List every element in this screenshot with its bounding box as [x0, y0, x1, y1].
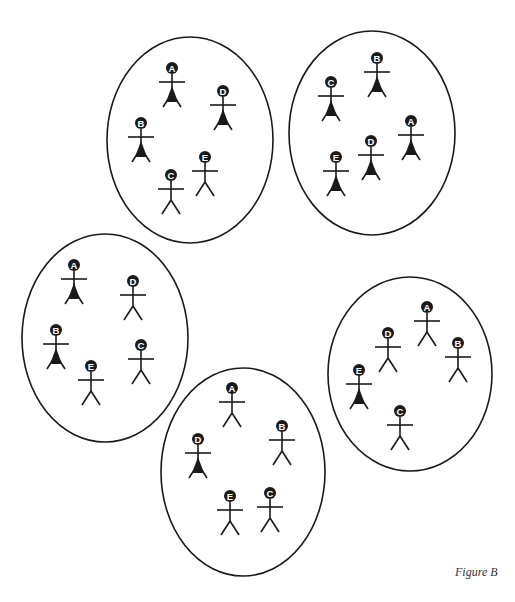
- skirt-triangle-icon: [365, 159, 377, 175]
- person-label: D: [130, 276, 137, 287]
- skirt-triangle-icon: [135, 141, 147, 157]
- person-label: C: [267, 488, 274, 499]
- person-c-open: C: [158, 169, 184, 214]
- person-label: B: [374, 53, 381, 64]
- person-b-filled: B: [43, 324, 69, 369]
- person-b-filled: B: [364, 52, 390, 97]
- group-ellipse: [107, 37, 273, 243]
- person-d-open: D: [375, 327, 401, 372]
- person-b-open: B: [445, 337, 471, 382]
- person-label: C: [138, 340, 145, 351]
- person-label: C: [397, 406, 404, 417]
- person-e-open: E: [217, 490, 243, 535]
- skirt-triangle-icon: [50, 348, 62, 364]
- person-label: A: [229, 383, 236, 394]
- skirt-triangle-icon: [192, 457, 204, 473]
- person-label: D: [220, 86, 227, 97]
- person-label: B: [138, 118, 145, 129]
- group-right: ADBEC: [328, 277, 492, 471]
- person-d-filled: D: [210, 85, 236, 130]
- person-a-filled: A: [61, 259, 87, 304]
- person-label: A: [424, 302, 431, 313]
- group-ellipse: [22, 234, 188, 442]
- skirt-triangle-icon: [353, 388, 365, 404]
- skirt-triangle-icon: [371, 76, 383, 92]
- person-label: A: [71, 260, 78, 271]
- group-top-right: BCADE: [289, 31, 455, 235]
- person-e-open: E: [78, 360, 104, 405]
- person-e-open: E: [192, 151, 218, 196]
- person-label: A: [408, 116, 415, 127]
- person-label: E: [202, 152, 208, 163]
- person-d-filled: D: [358, 135, 384, 180]
- person-b-open: B: [269, 420, 295, 465]
- person-label: D: [368, 136, 375, 147]
- person-e-filled: E: [346, 364, 372, 409]
- person-label: B: [53, 325, 60, 336]
- person-c-open: C: [128, 339, 154, 384]
- person-label: C: [328, 77, 335, 88]
- person-label: E: [333, 152, 339, 163]
- person-a-filled: A: [159, 62, 185, 107]
- person-label: D: [385, 328, 392, 339]
- person-b-filled: B: [128, 117, 154, 162]
- person-a-open: A: [414, 301, 440, 346]
- person-label: B: [279, 421, 286, 432]
- person-label: E: [356, 365, 362, 376]
- person-label: D: [195, 434, 202, 445]
- skirt-triangle-icon: [330, 175, 342, 191]
- person-c-open: C: [387, 405, 413, 450]
- person-d-open: D: [120, 275, 146, 320]
- skirt-triangle-icon: [68, 283, 80, 299]
- group-ellipse: [161, 368, 325, 576]
- person-a-filled: A: [398, 115, 424, 160]
- skirt-triangle-icon: [405, 139, 417, 155]
- group-top-left: ADBEC: [107, 37, 273, 243]
- person-label: C: [168, 170, 175, 181]
- group-ellipse: [289, 31, 455, 235]
- group-middle-left: ADBCE: [22, 234, 188, 442]
- person-c-filled: C: [318, 76, 344, 121]
- person-e-filled: E: [323, 151, 349, 196]
- skirt-triangle-icon: [325, 100, 337, 116]
- figure-caption: Figure B: [455, 565, 498, 580]
- person-label: B: [455, 338, 462, 349]
- person-label: A: [169, 63, 176, 74]
- figure-b-diagram: ADBECBCADEADBCEADBECABDCE: [0, 0, 515, 602]
- person-label: E: [227, 491, 233, 502]
- person-a-open: A: [219, 382, 245, 427]
- skirt-triangle-icon: [166, 86, 178, 102]
- person-c-open: C: [257, 487, 283, 532]
- group-bottom-middle: ABDCE: [161, 368, 325, 576]
- person-d-filled: D: [185, 433, 211, 478]
- person-label: E: [88, 361, 94, 372]
- skirt-triangle-icon: [217, 109, 229, 125]
- group-ellipse: [328, 277, 492, 471]
